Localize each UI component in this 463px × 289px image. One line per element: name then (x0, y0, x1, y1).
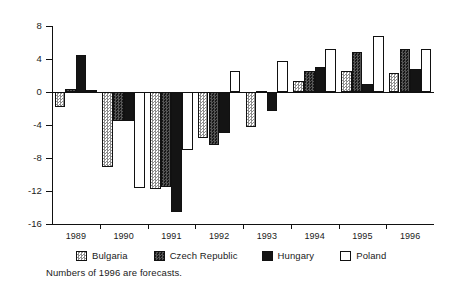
x-axis-tick (291, 224, 292, 229)
bar-poland-1990 (134, 92, 145, 188)
legend-item-poland: Poland (340, 251, 386, 261)
bar-hungary-1993 (267, 92, 278, 111)
y-axis-tick-label: -4 (33, 120, 42, 130)
bar-czech-republic-1990 (113, 92, 124, 121)
legend-label-czech-republic: Czech Republic (170, 251, 238, 261)
bar-chart: 840-4-8-12-16 19891990199119921993199419… (0, 0, 463, 289)
legend-label-hungary: Hungary (278, 251, 315, 261)
bar-czech-republic-1996 (400, 49, 411, 92)
x-axis-tick (386, 224, 387, 229)
legend-swatch-czech-republic (154, 251, 165, 261)
bar-czech-republic-1992 (209, 92, 220, 145)
bar-poland-1989 (86, 90, 97, 92)
bars-layer (52, 26, 434, 224)
x-axis-tick-label: 1994 (291, 231, 339, 241)
bar-czech-republic-1989 (65, 89, 76, 92)
bar-bulgaria-1990 (102, 92, 113, 167)
bar-poland-1991 (182, 92, 193, 150)
bar-bulgaria-1995 (341, 71, 352, 92)
bar-czech-republic-1993 (256, 91, 267, 93)
chart-legend: Bulgaria Czech Republic Hungary Poland (76, 248, 436, 264)
bar-poland-1992 (230, 71, 241, 92)
bar-czech-republic-1991 (161, 92, 172, 187)
x-axis-tick (195, 224, 196, 229)
bar-hungary-1995 (362, 84, 373, 92)
legend-label-poland: Poland (356, 251, 386, 261)
x-axis-tick (100, 224, 101, 229)
legend-item-hungary: Hungary (262, 251, 315, 261)
y-axis-tick-label: 4 (37, 54, 42, 64)
chart-footnote: Numbers of 1996 are forecasts. (46, 267, 182, 278)
legend-swatch-poland (340, 251, 351, 261)
bar-hungary-1990 (124, 92, 135, 121)
x-axis-tick-label: 1996 (386, 231, 434, 241)
x-axis-tick (243, 224, 244, 229)
bar-hungary-1992 (219, 92, 230, 133)
legend-label-bulgaria: Bulgaria (92, 251, 128, 261)
legend-swatch-bulgaria (76, 251, 87, 261)
x-axis-tick-label: 1989 (52, 231, 100, 241)
legend-item-czech-republic: Czech Republic (154, 251, 238, 261)
x-axis-tick-label: 1993 (243, 231, 291, 241)
x-axis-tick-label: 1995 (339, 231, 387, 241)
x-axis-tick (339, 224, 340, 229)
bar-bulgaria-1994 (293, 81, 304, 92)
y-axis-tick-label: -16 (28, 219, 42, 229)
bar-poland-1995 (373, 36, 384, 92)
y-axis-tick-label: -12 (28, 186, 42, 196)
bar-bulgaria-1992 (198, 92, 209, 138)
x-axis-tick-label: 1992 (195, 231, 243, 241)
bar-czech-republic-1995 (352, 52, 363, 92)
bar-bulgaria-1993 (246, 92, 257, 127)
y-axis-tick-label: 0 (37, 87, 42, 97)
x-axis-tick-label: 1990 (100, 231, 148, 241)
x-axis-tick (148, 224, 149, 229)
y-axis-tick-label: 8 (37, 21, 42, 31)
bar-bulgaria-1991 (150, 92, 161, 189)
y-axis-tick-label: -8 (33, 153, 42, 163)
bar-hungary-1991 (171, 92, 182, 212)
bar-hungary-1994 (315, 67, 326, 92)
y-axis-tick (46, 224, 52, 225)
bar-hungary-1989 (76, 55, 87, 92)
bar-hungary-1996 (410, 69, 421, 92)
legend-item-bulgaria: Bulgaria (76, 251, 128, 261)
bar-poland-1994 (325, 49, 336, 92)
bar-czech-republic-1994 (304, 71, 315, 92)
bar-poland-1993 (277, 61, 288, 92)
bar-bulgaria-1996 (389, 73, 400, 92)
bar-bulgaria-1989 (55, 92, 66, 107)
x-axis-tick-label: 1991 (148, 231, 196, 241)
legend-swatch-hungary (262, 251, 273, 261)
bar-poland-1996 (421, 49, 432, 92)
